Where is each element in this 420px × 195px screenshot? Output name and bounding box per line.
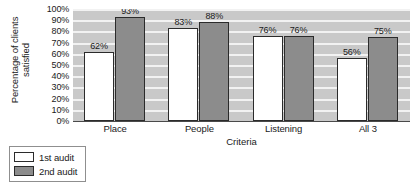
legend-swatch: [14, 166, 34, 176]
bar-all-3-2nd-audit[interactable]: [368, 37, 398, 121]
chart-legend: 1st audit2nd audit: [9, 146, 86, 182]
bar-value-label: 62%: [82, 41, 116, 51]
x-axis-tick-label: Listening: [242, 123, 326, 135]
y-axis-tick-label: 40%: [52, 72, 69, 81]
legend-item[interactable]: 1st audit: [14, 150, 77, 164]
y-axis-tick-label: 70%: [52, 39, 69, 48]
bar-people-2nd-audit[interactable]: [199, 22, 229, 121]
y-axis-title-line-2: satisfied: [20, 43, 31, 77]
bar-value-label: 56%: [335, 47, 369, 57]
x-axis-title: Criteria: [73, 136, 410, 148]
bar-value-label: 93%: [113, 9, 147, 16]
x-axis-tick-label: People: [157, 123, 241, 135]
bar-group: 56%75%: [337, 9, 399, 121]
x-axis-tick-labels: PlacePeopleListeningAll 3: [73, 123, 410, 137]
y-axis-tick-label: 50%: [52, 61, 69, 70]
x-axis-line: [73, 121, 410, 122]
bar-place-2nd-audit[interactable]: [115, 17, 145, 121]
x-axis-tick-label: Place: [73, 123, 157, 135]
bar-value-label: 88%: [197, 11, 231, 21]
legend-swatch: [14, 152, 34, 162]
y-axis-tick-label: 20%: [52, 95, 69, 104]
y-axis-tick-label: 100%: [47, 5, 69, 14]
y-axis-tick-label: 30%: [52, 83, 69, 92]
legend-label: 2nd audit: [39, 166, 77, 177]
bar-group: 62%93%: [84, 9, 146, 121]
bar-all-3-1st-audit[interactable]: [337, 58, 367, 121]
bar-listening-2nd-audit[interactable]: [284, 36, 314, 121]
bar-people-1st-audit[interactable]: [168, 28, 198, 121]
y-axis-tick-label: 80%: [52, 27, 69, 36]
bar-value-label: 76%: [251, 25, 285, 35]
y-axis-tick-label: 0%: [56, 117, 69, 126]
bar-group: 83%88%: [168, 9, 230, 121]
bar-value-label: 76%: [282, 25, 316, 35]
bar-listening-1st-audit[interactable]: [253, 36, 283, 121]
bar-group: 76%76%: [253, 9, 315, 121]
plot-area: 62%93%83%88%76%76%56%75%: [73, 9, 410, 121]
y-axis-tick-label: 10%: [52, 106, 69, 115]
bar-value-label: 75%: [366, 26, 400, 36]
bar-value-label: 83%: [166, 17, 200, 27]
bar-place-1st-audit[interactable]: [84, 52, 114, 121]
y-axis-tick-label: 60%: [52, 50, 69, 59]
y-axis-title: Percentage of clients satisfied: [3, 0, 37, 125]
x-axis-tick-label: All 3: [326, 123, 410, 135]
y-axis-tick-labels: 100%90%80%70%60%50%40%30%20%10%0%: [36, 4, 71, 128]
bar-chart: Percentage of clients satisfied 100%90%8…: [0, 0, 420, 195]
legend-item[interactable]: 2nd audit: [14, 164, 77, 178]
y-axis-title-line-1: Percentage of clients: [9, 17, 20, 104]
legend-label: 1st audit: [39, 152, 74, 163]
y-axis-tick-label: 90%: [52, 16, 69, 25]
